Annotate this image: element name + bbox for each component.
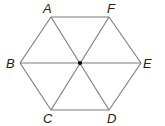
edge-ED: [109, 63, 141, 110]
center-point: [78, 61, 82, 65]
edge-BA: [20, 17, 51, 63]
vertex-label-c: C: [43, 111, 53, 126]
vertex-label-b: B: [6, 56, 15, 71]
vertex-label-e: E: [143, 56, 152, 71]
vertex-label-f: F: [107, 1, 116, 16]
edge-CB: [20, 63, 51, 110]
hexagon-diagram: AFEDCB: [0, 0, 165, 126]
vertex-label-d: D: [107, 111, 116, 126]
edge-FE: [109, 17, 141, 63]
vertex-label-a: A: [42, 1, 52, 16]
